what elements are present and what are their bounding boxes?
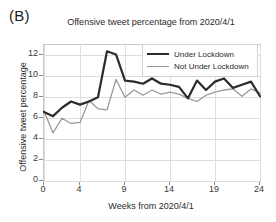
legend-label-1: Not Under Lockdown [174,62,249,71]
x-axis-label: Weeks from 2020/4/1 [43,201,259,211]
x-tick-label-2: 9 [112,184,136,194]
figure-panel-b: (B) Offensive tweet percentage from 2020… [0,0,276,222]
legend-item-1: Not Under Lockdown [147,60,253,72]
x-tick-label-1: 4 [67,184,91,194]
legend-item-0: Under Lockdown [147,48,253,60]
x-tick-label-0: 0 [31,184,55,194]
legend: Under Lockdown Not Under Lockdown [142,44,258,77]
x-tick-label-3: 14 [157,184,181,194]
x-tick-label-4: 19 [202,184,226,194]
gridline-y-0 [44,181,260,182]
legend-swatch-under-lockdown [147,53,169,55]
chart-title: Offensive tweet percentage from 2020/4/1 [43,17,259,27]
panel-label: (B) [9,7,30,24]
x-tick-label-5: 24 [247,184,271,194]
series-line-1 [44,80,260,133]
legend-swatch-not-under-lockdown [147,66,169,67]
y-axis-label: Offensive tweet percentage [18,42,28,192]
gridline-x-5 [260,45,261,181]
legend-label-0: Under Lockdown [174,50,234,59]
